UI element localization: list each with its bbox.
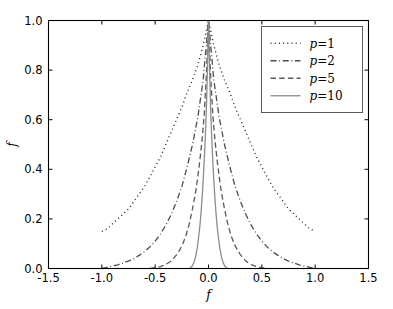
figure-canvas: -1.5-1.0-0.50.00.51.01.5 0.00.20.40.60.8… [0,0,393,309]
legend-label-p-5: p=5 [310,72,335,86]
x-tick-label: 0.0 [199,271,217,285]
x-tick-label: 0.5 [253,271,271,285]
legend-label-p-2: p=2 [310,54,335,68]
y-tick-label: 0.0 [24,262,42,276]
y-tick-label: 0.8 [24,63,42,77]
line-chart: -1.5-1.0-0.50.00.51.01.5 0.00.20.40.60.8… [0,0,393,309]
x-tick-label: -0.5 [144,271,166,285]
x-tick-label: 1.0 [306,271,324,285]
y-tick-label: 0.4 [24,162,42,176]
legend-label-p-1: p=1 [310,37,335,51]
y-tick-label: 1.0 [24,14,42,28]
legend[interactable]: p=1p=2p=5p=10 [262,27,363,113]
y-tick-label: 0.2 [24,212,42,226]
x-tick-label: 1.5 [359,271,377,285]
x-tick-label: -1.0 [91,271,113,285]
y-tick-label: 0.6 [24,113,42,127]
legend-label-p-10: p=10 [310,89,343,103]
